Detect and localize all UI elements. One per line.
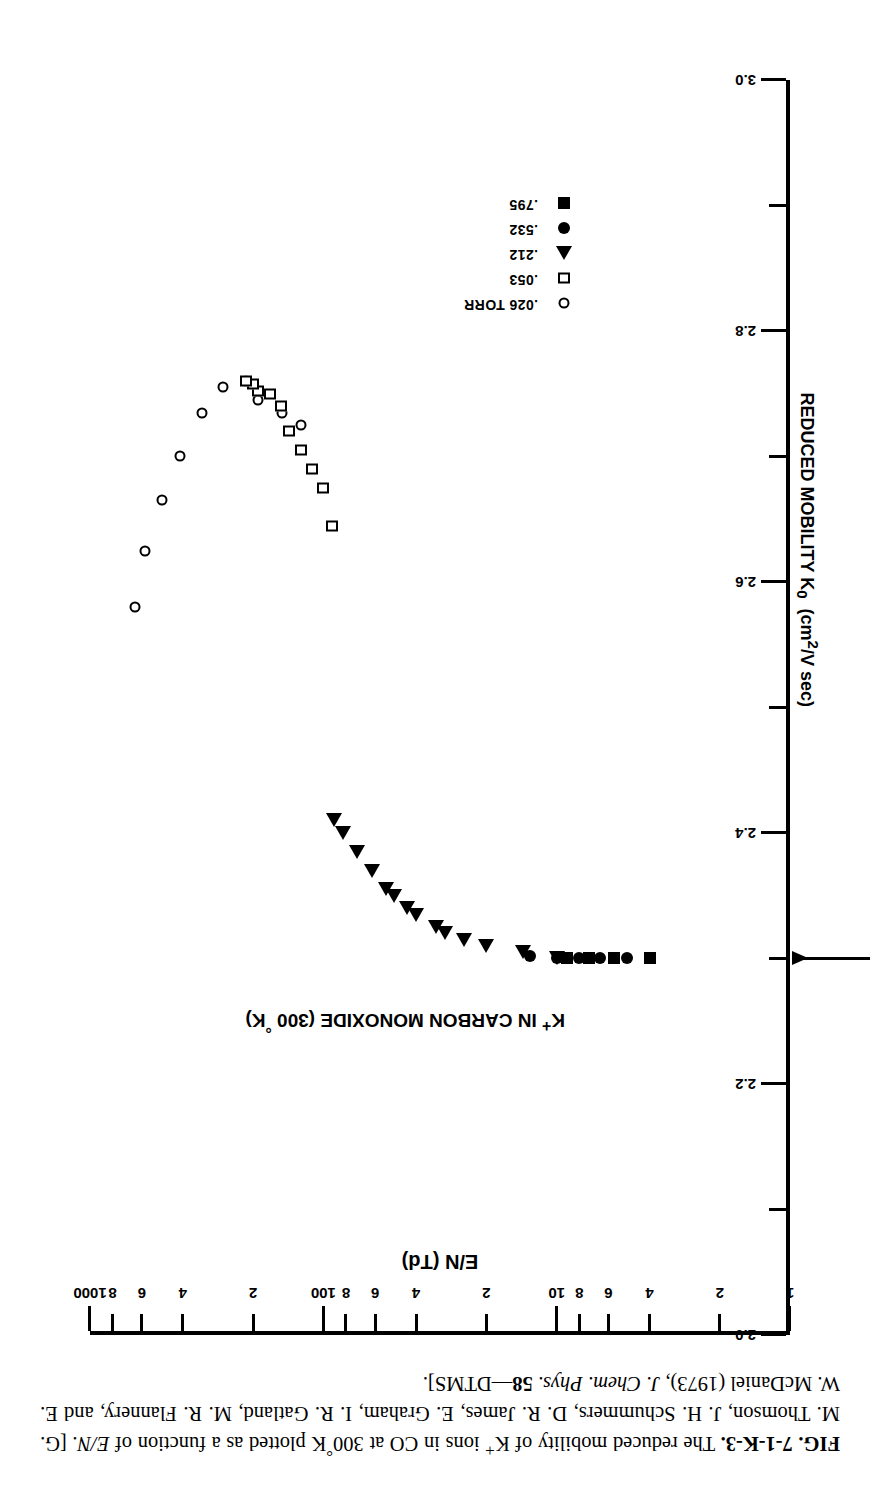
legend-label: .053	[509, 272, 538, 288]
k-plus-superscript: +	[485, 1441, 495, 1460]
data-point-marker	[594, 953, 606, 965]
data-point-marker	[644, 953, 656, 965]
figure-graphic: 1101001000246824682468 2.02.22.42.62.83.…	[0, 7, 882, 1387]
data-point-marker	[456, 933, 472, 947]
x-tick	[111, 1314, 114, 1331]
data-point-marker	[240, 376, 252, 387]
plot-title-k: K	[551, 1010, 565, 1031]
legend-label: .026 TORR	[464, 297, 538, 313]
x-tick-label: 8	[342, 1285, 350, 1302]
data-point-marker	[335, 826, 351, 840]
data-point-marker	[428, 920, 444, 934]
y-tick	[761, 330, 786, 333]
x-tick-label: 8	[108, 1285, 116, 1302]
legend-item: .212	[374, 240, 564, 265]
plot-title-plus: +	[542, 1018, 551, 1035]
x-tick-label: 100	[311, 1285, 336, 1302]
y-axis-title-units: (cm2/V sec)	[797, 604, 817, 707]
data-point-marker	[295, 445, 307, 456]
legend-item: .532	[374, 215, 564, 240]
x-tick	[789, 1306, 792, 1331]
caption-text-1: The reduced mobility of K	[495, 1433, 715, 1455]
x-tick-label: 6	[138, 1285, 146, 1302]
x-axis-title: E/N (Td)	[402, 1250, 479, 1273]
x-tick-label: 6	[604, 1285, 612, 1302]
x-tick	[181, 1314, 184, 1331]
y-tick	[769, 455, 786, 458]
y-tick-label: 2.6	[735, 574, 756, 591]
y-tick	[769, 957, 786, 960]
data-point-marker	[140, 545, 151, 556]
legend-symbol	[558, 222, 570, 234]
x-tick	[555, 1306, 558, 1331]
data-point-marker	[295, 420, 306, 431]
x-tick	[485, 1314, 488, 1331]
legend-item: .053	[374, 265, 564, 290]
x-tick	[140, 1314, 143, 1331]
data-point-marker	[175, 451, 186, 462]
data-point-marker	[326, 520, 338, 531]
data-point-marker	[608, 953, 620, 965]
caption-text-3: K plotted as a function of	[109, 1433, 326, 1455]
legend-symbol	[556, 246, 572, 260]
data-point-marker	[561, 953, 573, 965]
data-point-marker	[130, 602, 141, 613]
legend-item: .795	[374, 190, 564, 215]
data-point-marker	[197, 407, 208, 418]
y-tick	[769, 204, 786, 207]
y-tick	[769, 706, 786, 709]
x-tick-label: 6	[371, 1285, 379, 1302]
x-tick-label: 2	[482, 1285, 490, 1302]
legend-symbol	[559, 298, 570, 309]
data-point-marker	[275, 401, 287, 412]
data-point-marker	[349, 845, 365, 859]
x-tick	[607, 1314, 610, 1331]
y-tick	[761, 1334, 786, 1337]
degree-symbol: °	[326, 1441, 333, 1460]
x-tick	[415, 1314, 418, 1331]
data-point-marker	[157, 495, 168, 506]
x-axis-line	[90, 1331, 790, 1335]
data-point-marker	[524, 950, 536, 962]
x-tick	[374, 1314, 377, 1331]
data-point-marker	[326, 813, 342, 827]
x-tick	[322, 1306, 325, 1331]
y-axis-title-main: REDUCED MOBILITY K	[797, 393, 817, 591]
legend-label: .795	[509, 197, 538, 213]
data-point-marker	[217, 382, 228, 393]
data-point-marker	[399, 901, 415, 915]
x-tick-label: 4	[412, 1285, 420, 1302]
caption-en-italic: E/N	[77, 1433, 109, 1455]
y-axis-title-sub: 0	[794, 590, 811, 598]
x-tick	[89, 1306, 92, 1331]
x-tick-label: 4	[645, 1285, 653, 1302]
x-tick-label: 10	[548, 1285, 565, 1302]
y-tick-label: 2.0	[735, 1327, 756, 1344]
x-tick	[578, 1314, 581, 1331]
legend-label: .532	[509, 222, 538, 238]
plot-area: 1101001000246824682468 2.02.22.42.62.83.…	[90, 80, 790, 1335]
legend-item: .026 TORR	[374, 290, 564, 315]
y-axis-line	[786, 80, 790, 1335]
plot-title-end: K)	[245, 1010, 265, 1031]
x-tick	[718, 1314, 721, 1331]
y-tick	[761, 832, 786, 835]
x-tick-label: 1	[786, 1285, 794, 1302]
scanned-figure-page: FIG. 7-1-K-3. The reduced mobility of K+…	[0, 0, 882, 1505]
legend-symbol	[558, 197, 570, 209]
x-tick-label: 4	[179, 1285, 187, 1302]
y-tick-label: 2.8	[735, 323, 756, 340]
figure-number: FIG. 7-1-K-3.	[721, 1433, 840, 1455]
legend: .026 TORR.053.212.532.795	[374, 190, 564, 315]
data-point-marker	[478, 939, 494, 953]
x-tick	[252, 1314, 255, 1331]
y-tick-label: 3.0	[735, 72, 756, 89]
x-tick-label: 2	[249, 1285, 257, 1302]
y-tick	[761, 1083, 786, 1086]
y-tick-label: 2.2	[735, 1076, 756, 1093]
x-tick	[344, 1314, 347, 1331]
y-axis-title: REDUCED MOBILITY K0 (cm2/V sec)	[794, 393, 823, 707]
plot-title: K+ IN CARBON MONOXIDE (300 °K)	[245, 1009, 565, 1035]
data-point-marker	[283, 426, 295, 437]
data-point-marker	[583, 953, 595, 965]
